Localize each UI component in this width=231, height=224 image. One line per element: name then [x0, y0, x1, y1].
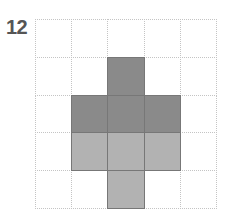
grid-cell: [107, 19, 144, 58]
shaded-cell-dark: [144, 95, 181, 134]
shaded-cell-light: [71, 132, 108, 171]
grid-cell: [35, 170, 72, 209]
shaded-cell-light: [107, 170, 144, 209]
grid-cell: [144, 19, 181, 58]
grid-cell: [180, 19, 217, 58]
grid-cell: [144, 57, 181, 96]
grid-cell: [71, 19, 108, 58]
grid-cell: [180, 132, 217, 171]
grid-cell: [35, 57, 72, 96]
square-grid: [35, 19, 216, 208]
grid-cell: [180, 57, 217, 96]
grid-cell: [35, 95, 72, 134]
grid-cell: [180, 170, 217, 209]
shaded-cell-dark: [71, 95, 108, 134]
shaded-cell-light: [107, 132, 144, 171]
shaded-cell-light: [144, 132, 181, 171]
grid-cell: [35, 19, 72, 58]
grid-cell: [180, 95, 217, 134]
grid-cell: [71, 57, 108, 96]
grid-cell: [144, 170, 181, 209]
shaded-cell-dark: [107, 57, 144, 96]
shaded-cell-dark: [107, 95, 144, 134]
grid-cell: [71, 170, 108, 209]
figure-number: 12: [6, 16, 27, 39]
grid-cell: [35, 132, 72, 171]
